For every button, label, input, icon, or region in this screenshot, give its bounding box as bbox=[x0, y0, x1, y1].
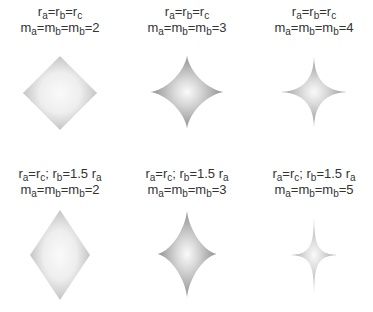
exponent-label: ma=mb=mb=3 bbox=[125, 182, 249, 198]
radius-label: ra=rb=rc bbox=[0, 4, 122, 20]
superellipse-shape bbox=[150, 55, 224, 129]
superellipse-shape bbox=[23, 56, 97, 130]
shapes-canvas bbox=[0, 0, 373, 312]
radius-label: ra=rb=rc bbox=[252, 4, 373, 20]
superellipse-shape bbox=[285, 211, 343, 299]
exponent-label: ma=mb=mb=3 bbox=[125, 20, 249, 36]
radius-label: ra=rc; rb=1.5 ra bbox=[0, 166, 122, 182]
superellipse-shape bbox=[30, 210, 90, 300]
radius-label: ra=rb=rc bbox=[125, 4, 249, 20]
superellipse-shape bbox=[278, 55, 350, 129]
exponent-label: ma=mb=mb=5 bbox=[252, 182, 373, 198]
superellipse-shape bbox=[157, 210, 217, 298]
exponent-label: ma=mb=mb=2 bbox=[0, 182, 122, 198]
exponent-label: ma=mb=mb=2 bbox=[0, 20, 122, 36]
exponent-label: ma=mb=mb=4 bbox=[252, 20, 373, 36]
radius-label: ra=rc; rb=1.5 ra bbox=[125, 166, 249, 182]
radius-label: ra=rc; rb=1.5 ra bbox=[252, 166, 373, 182]
